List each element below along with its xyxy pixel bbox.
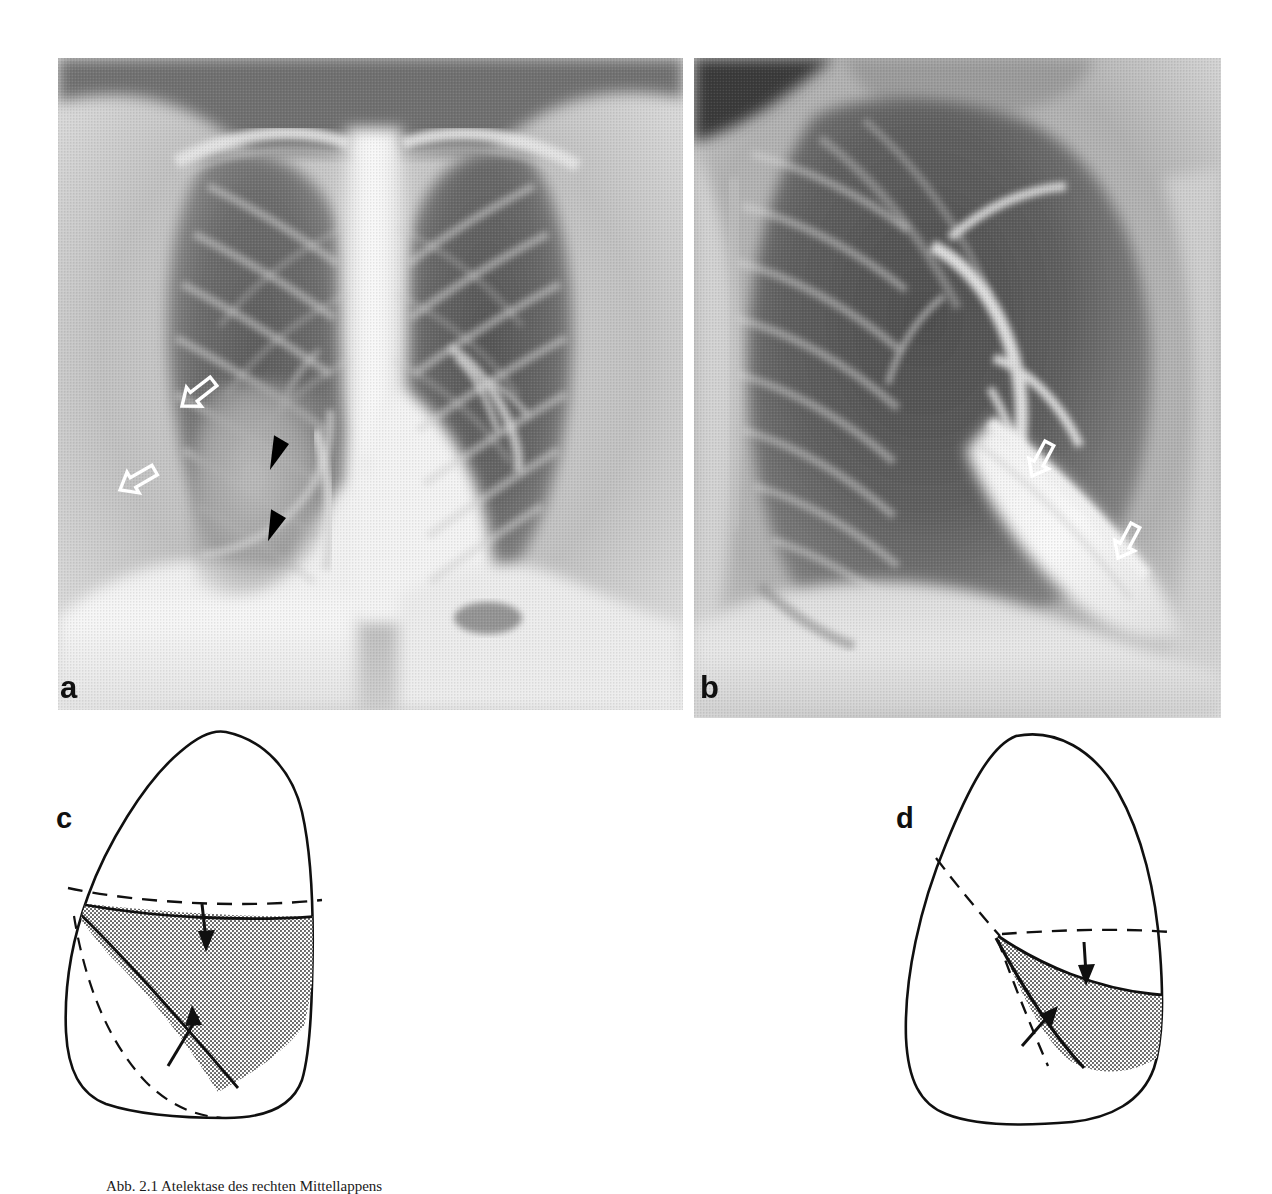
figure-caption: Abb. 2.1 Atelektase des rechten Mittella… xyxy=(106,1176,1156,1194)
panel-label-d: d xyxy=(896,804,914,833)
panel-label-b: b xyxy=(700,672,719,703)
radiograph-panel-b xyxy=(694,58,1221,718)
schematic-panel-d xyxy=(880,726,1210,1136)
panel-label-c: c xyxy=(56,804,72,833)
radiograph-panel-a xyxy=(58,58,683,710)
schematic-panel-c xyxy=(40,726,370,1136)
panel-label-a: a xyxy=(60,672,77,703)
figure-root: a xyxy=(0,0,1272,1194)
